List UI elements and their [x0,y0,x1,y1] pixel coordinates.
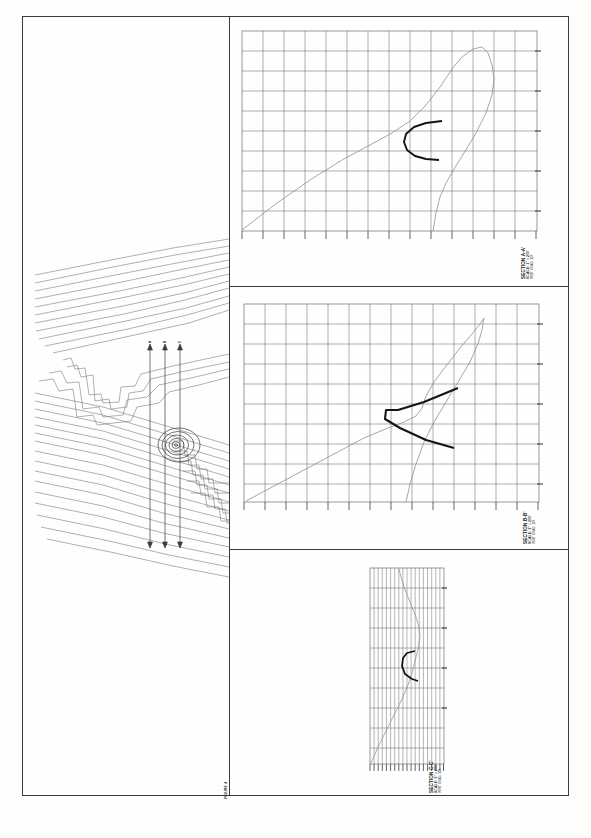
chart-panel-section-a: SECTION A-A' SCALE: 1" = 200' VERT. EXAG… [230,17,568,286]
contour-map-panel: A B C [23,17,229,795]
figure-id-label: FIGURE 4 [224,782,228,799]
contour-set-middle [39,354,229,425]
chart-svg-section-b [230,288,568,549]
chart-panel-section-b: SECTION B-B' SCALE: 1" = 200' VERT. EXAG… [230,288,568,549]
contour-set-upper [35,239,229,353]
chart-caption-section-b: SECTION B-B' SCALE: 1" = 200' VERT. EXAG… [524,511,536,544]
contour-map-svg [23,17,229,794]
chart-caption-section-a: SECTION A-A' SCALE: 1" = 200' VERT. EXAG… [522,246,534,279]
series-drawdown-cone [402,651,418,681]
dimension-label-b: B [163,341,167,343]
dimension-label-c: C [178,341,182,343]
caption-exaggeration: VERT. EXAG. 10X [439,760,442,793]
drawdown-cone-contours [158,428,200,462]
series-ground-surface [246,318,484,502]
series-drawdown-cone [404,121,442,160]
chart-caption-section-c: SECTION C-C' SCALE: 1" = 200' VERT. EXAG… [430,760,442,793]
caption-exaggeration: VERT. EXAG. 10X [531,246,534,279]
dimension-label-a: A [148,341,152,343]
chart-panel-section-c: SECTION C-C' SCALE: 1" = 200' VERT. EXAG… [230,551,568,795]
chart-svg-section-c [230,551,568,795]
contour-set-east [173,441,229,523]
page-frame: A B C [22,16,569,796]
series-drawdown-cone [385,388,458,448]
chart-svg-section-a [230,17,568,286]
caption-exaggeration: VERT. EXAG. 10X [533,511,536,544]
